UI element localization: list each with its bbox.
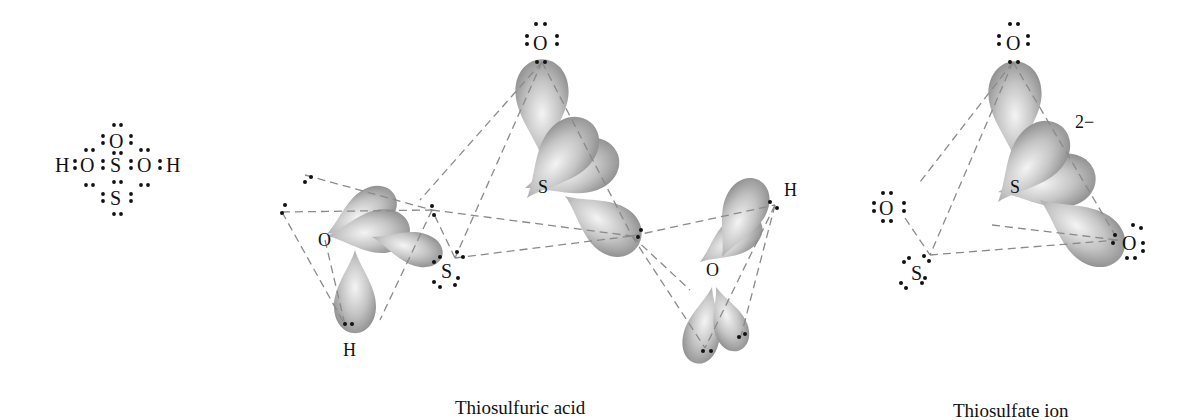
- atom-terminal-S: S: [911, 262, 922, 284]
- diagram-canvas: O H O S O H S: [0, 0, 1200, 420]
- atom-left-O: O: [879, 197, 893, 219]
- atom-right-O: O: [1122, 232, 1136, 254]
- atom-left-O: O: [80, 154, 94, 176]
- caption-thiosulfuric-acid: Thiosulfuric acid: [455, 397, 585, 419]
- ion-charge: 2−: [1075, 112, 1094, 132]
- atom-bottom-S: S: [110, 187, 121, 209]
- atom-left-H: H: [55, 154, 69, 176]
- atom-center-S: S: [538, 177, 548, 197]
- lewis-structure: O H O S O H S: [55, 123, 180, 216]
- atom-right-H: H: [166, 154, 180, 176]
- thiosulfate-ion-model: O S O S O 2−: [872, 22, 1145, 290]
- thiosulfuric-acid-model: O S O H S O H: [280, 22, 797, 367]
- atom-top-O: O: [1006, 32, 1020, 54]
- atom-right-O: O: [706, 260, 719, 280]
- atom-top-O: O: [109, 130, 123, 152]
- caption-thiosulfate-ion: Thiosulfate ion: [953, 400, 1069, 420]
- atom-terminal-S: S: [441, 260, 452, 282]
- atom-right-H: H: [784, 180, 797, 200]
- atom-center-S: S: [1010, 177, 1020, 197]
- atom-left-O: O: [318, 230, 331, 250]
- atom-right-O: O: [137, 154, 151, 176]
- atom-top-O: O: [533, 32, 547, 54]
- atom-left-H: H: [343, 340, 356, 360]
- atom-center-S: S: [110, 154, 121, 176]
